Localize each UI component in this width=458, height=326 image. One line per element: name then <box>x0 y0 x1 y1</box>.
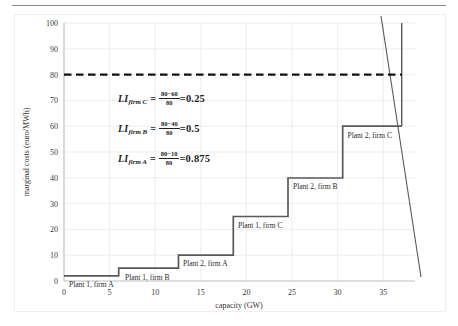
li-a-equals: = <box>147 153 159 164</box>
y-tick-50: 50 <box>50 148 58 157</box>
li-a-result: =0.875 <box>179 153 210 164</box>
y-tick-60: 60 <box>50 122 58 131</box>
x-tick-labels: 0 5 10 15 20 25 30 35 <box>62 288 387 297</box>
li-c-fraction: 80−6080 <box>159 90 180 106</box>
li-b-denominator: 80 <box>159 128 180 136</box>
supply-step-curve <box>64 126 402 276</box>
li-b-numerator: 80−40 <box>159 120 180 127</box>
y-axis-title: marginal costs (euro/MWh) <box>22 107 31 196</box>
li-a-subscript: firm A <box>128 158 147 166</box>
li-b-fraction: 80−4080 <box>159 120 180 136</box>
li-c-equals: = <box>147 93 159 104</box>
x-tick-0: 0 <box>62 288 66 297</box>
li-a-denominator: 80 <box>159 158 180 166</box>
li-c-numerator: 80−60 <box>159 90 180 97</box>
figure-container: 100 90 80 70 60 50 40 30 20 10 0 0 5 10 … <box>0 0 458 326</box>
li-c-denominator: 80 <box>159 98 180 106</box>
y-tick-0: 0 <box>54 277 58 286</box>
li-b-equals: = <box>147 123 159 134</box>
li-b-lhs: LI <box>118 123 128 134</box>
step-label-plant2-firmB: Plant 2, firm B <box>293 182 338 191</box>
x-tick-5: 5 <box>108 288 112 297</box>
step-label-plant1-firmA: Plant 1, firm A <box>69 280 114 289</box>
x-tick-30: 30 <box>334 288 342 297</box>
x-axis-title: capacity (GW) <box>215 301 263 310</box>
step-label-plant1-firmC: Plant 1, firm C <box>238 221 283 230</box>
y-tick-30: 30 <box>50 200 58 209</box>
lerner-index-firm-c-annotation: LIfirm C=80−6080=0.25 <box>118 88 205 106</box>
y-tick-20: 20 <box>50 225 58 234</box>
li-a-fraction: 80−1080 <box>159 150 180 166</box>
step-label-plant2-firmA: Plant 2, firm A <box>183 259 228 268</box>
lerner-index-firm-b-annotation: LIfirm B=80−4080=0.5 <box>118 118 200 136</box>
x-tick-20: 20 <box>242 288 250 297</box>
top-horizontal-rule <box>12 5 446 6</box>
li-a-lhs: LI <box>118 153 128 164</box>
x-tick-10: 10 <box>151 288 159 297</box>
chart-svg: 100 90 80 70 60 50 40 30 20 10 0 0 5 10 … <box>15 15 445 311</box>
li-b-result: =0.5 <box>180 123 200 134</box>
step-label-plant1-firmB: Plant 1, firm B <box>125 273 170 282</box>
plot-area: 100 90 80 70 60 50 40 30 20 10 0 0 5 10 … <box>14 14 446 312</box>
y-tick-40: 40 <box>50 174 58 183</box>
li-c-lhs: LI <box>118 93 128 104</box>
y-tick-labels: 100 90 80 70 60 50 40 30 20 10 0 <box>46 19 58 286</box>
y-tick-90: 90 <box>50 45 58 54</box>
li-b-subscript: firm B <box>128 128 147 136</box>
x-tick-15: 15 <box>197 288 205 297</box>
x-tick-35: 35 <box>379 288 387 297</box>
y-tick-10: 10 <box>50 251 58 260</box>
y-tick-70: 70 <box>50 96 58 105</box>
x-tick-25: 25 <box>288 288 296 297</box>
lerner-index-firm-a-annotation: LIfirm A=80−1080=0.875 <box>118 148 210 166</box>
li-c-result: =0.25 <box>180 93 205 104</box>
li-a-numerator: 80−10 <box>159 150 180 157</box>
step-label-plant2-firmC: Plant 2, firm C <box>348 131 393 140</box>
y-tick-100: 100 <box>46 19 58 28</box>
li-c-subscript: firm C <box>128 98 147 106</box>
y-tick-80: 80 <box>50 71 58 80</box>
